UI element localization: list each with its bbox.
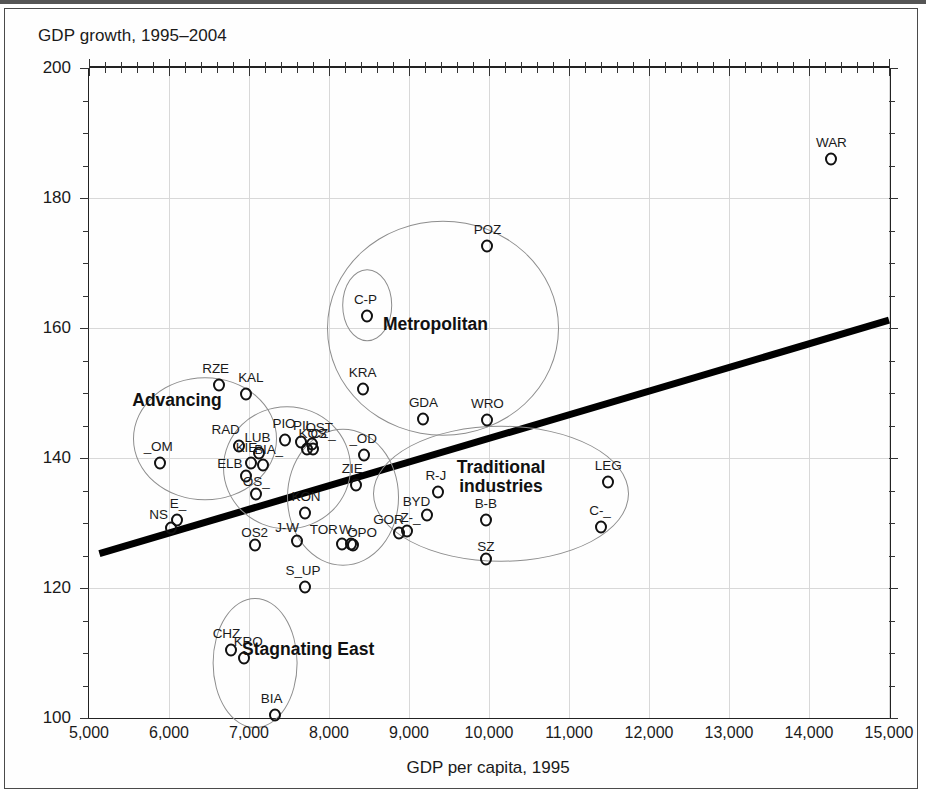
data-point[interactable] bbox=[481, 240, 493, 253]
data-point[interactable] bbox=[291, 534, 303, 547]
data-point[interactable] bbox=[432, 486, 444, 499]
x-tick-label: 13,000 bbox=[705, 724, 754, 742]
x-tick bbox=[89, 59, 90, 68]
data-point[interactable] bbox=[825, 153, 837, 166]
data-point[interactable] bbox=[347, 539, 359, 552]
data-point-label: RZE bbox=[202, 361, 229, 376]
data-point[interactable] bbox=[250, 488, 262, 501]
y-tick-minor bbox=[889, 556, 895, 557]
x-tick-minor bbox=[793, 62, 794, 68]
y-tick-minor bbox=[889, 166, 895, 167]
x-tick-minor bbox=[457, 68, 458, 73]
x-tick-minor bbox=[425, 62, 426, 68]
data-point-label: TOR bbox=[310, 522, 338, 537]
data-point-label: C-P bbox=[354, 292, 377, 307]
y-tick-label: 200 bbox=[43, 58, 71, 78]
data-point[interactable] bbox=[480, 513, 492, 526]
data-point-label: WAR bbox=[816, 135, 847, 150]
data-point[interactable] bbox=[361, 310, 373, 323]
data-point[interactable] bbox=[299, 507, 311, 520]
data-point[interactable] bbox=[249, 539, 261, 552]
y-tick-minor bbox=[889, 393, 895, 394]
data-point[interactable] bbox=[480, 552, 492, 565]
x-tick-minor bbox=[377, 62, 378, 68]
y-tick-minor bbox=[83, 491, 89, 492]
x-tick bbox=[409, 68, 410, 76]
data-point[interactable] bbox=[165, 521, 177, 534]
data-point-label: NS bbox=[149, 507, 168, 522]
y-tick-minor bbox=[83, 361, 89, 362]
data-point[interactable] bbox=[602, 476, 614, 489]
data-point[interactable] bbox=[245, 457, 257, 470]
y-tick-minor bbox=[83, 133, 89, 134]
x-tick-minor bbox=[633, 62, 634, 68]
gridline-vertical bbox=[809, 68, 810, 718]
data-point[interactable] bbox=[595, 520, 607, 533]
y-tick-minor bbox=[889, 621, 895, 622]
data-point[interactable] bbox=[350, 479, 362, 492]
data-point-label: RAD bbox=[211, 422, 239, 437]
x-tick-minor bbox=[585, 68, 586, 73]
x-tick-minor bbox=[537, 62, 538, 68]
data-point-label: Z-_ bbox=[400, 510, 420, 525]
x-tick-minor bbox=[585, 62, 586, 68]
y-tick-minor bbox=[83, 523, 89, 524]
x-tick-minor bbox=[121, 62, 122, 68]
x-tick bbox=[249, 59, 250, 68]
data-point[interactable] bbox=[417, 413, 429, 426]
x-tick bbox=[169, 59, 170, 68]
x-tick bbox=[489, 68, 490, 76]
x-tick-minor bbox=[105, 62, 106, 68]
scan-edge-top bbox=[0, 0, 926, 4]
x-tick-minor bbox=[313, 62, 314, 68]
data-point-label: C-_ bbox=[589, 503, 610, 518]
data-point-label: J-W bbox=[275, 520, 299, 535]
data-point[interactable] bbox=[481, 414, 493, 427]
data-point[interactable] bbox=[240, 388, 252, 401]
data-point-label: S_UP bbox=[286, 563, 321, 578]
x-tick-minor bbox=[121, 68, 122, 73]
data-point[interactable] bbox=[357, 383, 369, 396]
data-point[interactable] bbox=[269, 709, 281, 722]
y-tick-label: 100 bbox=[43, 708, 71, 728]
x-tick bbox=[649, 68, 650, 76]
y-tick-minor bbox=[889, 686, 895, 687]
data-point-label: WRO bbox=[471, 396, 504, 411]
data-point[interactable] bbox=[257, 458, 269, 471]
gridline-vertical bbox=[729, 68, 730, 718]
data-point[interactable] bbox=[421, 509, 433, 522]
data-point[interactable] bbox=[299, 580, 311, 593]
data-point-label: GDA bbox=[409, 395, 438, 410]
y-tick bbox=[80, 68, 89, 69]
x-tick-minor bbox=[745, 62, 746, 68]
data-point-label: BIA_ bbox=[254, 442, 283, 457]
x-tick-minor bbox=[841, 62, 842, 68]
x-axis-title: GDP per capita, 1995 bbox=[88, 758, 888, 778]
x-tick bbox=[649, 59, 650, 68]
y-tick-minor bbox=[83, 166, 89, 167]
y-tick bbox=[889, 588, 898, 589]
x-tick-label: 15,000 bbox=[865, 724, 914, 742]
x-tick-minor bbox=[265, 68, 266, 73]
data-point[interactable] bbox=[307, 442, 319, 455]
gridline-vertical bbox=[329, 68, 330, 718]
y-tick-minor bbox=[83, 263, 89, 264]
x-tick-minor bbox=[521, 62, 522, 68]
x-tick-minor bbox=[777, 68, 778, 73]
x-tick-minor bbox=[457, 62, 458, 68]
data-point-label: KRA bbox=[349, 365, 376, 380]
data-point[interactable] bbox=[358, 449, 370, 462]
x-tick-label: 12,000 bbox=[625, 724, 674, 742]
x-tick-label: 10,000 bbox=[465, 724, 514, 742]
x-tick-minor bbox=[793, 68, 794, 73]
data-point-label: CZ_ bbox=[310, 426, 335, 441]
x-tick bbox=[489, 59, 490, 68]
data-point-label: KON bbox=[292, 489, 321, 504]
page-title: GDP growth, 1995–2004 bbox=[38, 26, 227, 46]
y-tick-minor bbox=[889, 101, 895, 102]
x-tick-minor bbox=[505, 62, 506, 68]
x-tick-minor bbox=[601, 68, 602, 73]
data-point[interactable] bbox=[401, 524, 413, 537]
data-point-label: LEG bbox=[595, 458, 622, 473]
data-point[interactable] bbox=[154, 456, 166, 469]
